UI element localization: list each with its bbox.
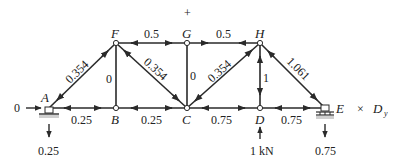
force-label-FG: 0.5 bbox=[144, 27, 159, 41]
svg-text:1 kN: 1 kN bbox=[250, 144, 274, 158]
node-label-D: D bbox=[254, 112, 265, 127]
dy-subscript: y bbox=[383, 109, 388, 118]
roller-support-E bbox=[316, 105, 334, 119]
svg-text:0: 0 bbox=[14, 101, 20, 115]
force-label-GC: 0 bbox=[190, 69, 196, 83]
joint-F bbox=[113, 40, 118, 45]
node-label-H: H bbox=[254, 26, 265, 41]
joint-D bbox=[257, 105, 262, 110]
node-label-C: C bbox=[182, 112, 191, 127]
force-label-AB: 0.25 bbox=[71, 113, 92, 127]
force-label-BC: 0.25 bbox=[141, 113, 162, 127]
vertical-reaction-E: 0.75 bbox=[315, 124, 336, 158]
horizontal-reaction-A: 0 bbox=[14, 101, 41, 115]
joint-B bbox=[113, 105, 118, 110]
node-label-F: F bbox=[110, 26, 120, 41]
joint-C bbox=[184, 105, 189, 110]
force-label-HD: 1 bbox=[263, 71, 269, 85]
svg-text:0.75: 0.75 bbox=[315, 144, 336, 158]
node-label-B: B bbox=[111, 112, 119, 127]
truss-diagram: + bbox=[0, 0, 395, 165]
svg-text:0.25: 0.25 bbox=[38, 144, 59, 158]
force-label-DE: 0.75 bbox=[281, 113, 302, 127]
applied-load-D: 1 kN bbox=[250, 127, 274, 158]
joint-G bbox=[184, 40, 189, 45]
node-label-E: E bbox=[335, 101, 344, 116]
member-FC bbox=[116, 43, 187, 108]
times-symbol: × bbox=[357, 102, 364, 116]
force-label-FB: 0 bbox=[106, 72, 112, 86]
joint-H bbox=[257, 40, 262, 45]
node-label-G: G bbox=[182, 26, 192, 41]
force-label-CD: 0.75 bbox=[211, 113, 232, 127]
member-HE bbox=[260, 43, 325, 108]
vertical-reaction-A: 0.25 bbox=[38, 124, 59, 158]
dy-label: D bbox=[372, 101, 383, 116]
force-label-GH: 0.5 bbox=[216, 27, 231, 41]
node-label-A: A bbox=[40, 90, 49, 105]
sign-marker: + bbox=[184, 6, 191, 20]
truss-joints bbox=[113, 40, 262, 110]
force-label-CH: 0.354 bbox=[205, 57, 234, 85]
dy-annotation: × D y bbox=[357, 101, 388, 118]
force-label-HE: 1.061 bbox=[284, 54, 313, 83]
